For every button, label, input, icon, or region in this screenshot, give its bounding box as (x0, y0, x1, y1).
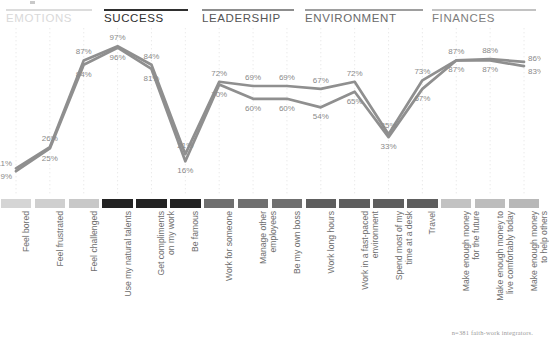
data-label: 11% (0, 159, 12, 168)
footnote: n=381 faith-work integrators. (452, 329, 533, 336)
data-label: 70% (211, 90, 227, 99)
data-label: 88% (482, 46, 498, 55)
x-axis-label: Work long hours (327, 211, 345, 323)
x-axis-label: Make enough money to live comfortably to… (496, 211, 514, 323)
x-axis-labels: Feel boredFeel frustratedFeel challenged… (0, 211, 541, 323)
category-swatch (272, 199, 302, 208)
data-label: 69% (245, 73, 261, 82)
data-label: 9% (0, 172, 12, 181)
x-axis-label: Manage other employees (259, 211, 277, 323)
category-swatch (102, 199, 132, 208)
category-swatch (35, 199, 65, 208)
category-swatch (170, 199, 200, 208)
category-swatch (1, 199, 31, 208)
x-axis-label: Work for someone (225, 211, 243, 323)
category-swatch (69, 199, 99, 208)
category-leadership: LEADERSHIP (202, 0, 294, 28)
data-label: 97% (110, 33, 126, 42)
category-label: SUCCESS (104, 12, 164, 24)
category-swatch-strip (0, 199, 541, 208)
data-label: 87% (448, 65, 464, 74)
data-label: 65% (347, 97, 363, 106)
data-label: 25% (42, 154, 58, 163)
line-chart-plot-area: 11%26%87%97%84%21%72%69%69%67%72%35%73%8… (0, 28, 541, 196)
x-axis-label: Make enough money for the future (462, 211, 480, 323)
category-swatch (339, 199, 369, 208)
category-emotions: EMOTIONS (6, 0, 92, 28)
category-rule (305, 9, 423, 11)
data-label: 69% (279, 73, 295, 82)
x-axis-label: Feel challenged (90, 211, 108, 323)
data-label: 87% (482, 65, 498, 74)
data-label: 16% (177, 166, 193, 175)
category-environment: ENVIRONMENT (305, 0, 423, 28)
category-label: ENVIRONMENT (305, 12, 397, 24)
x-axis-label: Use my natural talents (124, 211, 142, 323)
data-label: 21% (177, 141, 193, 150)
category-rule (202, 9, 294, 11)
x-axis-label: Get compliments on my work (157, 211, 175, 323)
category-swatch (407, 199, 437, 208)
data-label: 87% (448, 47, 464, 56)
data-label: 72% (211, 69, 227, 78)
x-axis-label: Spend most of my time at a desk (395, 211, 413, 323)
data-label: 33% (381, 142, 397, 151)
category-rule (6, 9, 92, 11)
category-label: FINANCES (432, 12, 495, 24)
data-label: 26% (42, 134, 58, 143)
data-label: 96% (110, 53, 126, 62)
category-rule (104, 9, 188, 11)
data-label: 86% (528, 54, 541, 63)
data-label: 84% (76, 70, 92, 79)
x-axis-label: Be my own boss (293, 211, 311, 323)
data-label: 35% (381, 121, 397, 130)
category-label: LEADERSHIP (202, 12, 281, 24)
category-swatch (441, 199, 471, 208)
data-label: 83% (528, 67, 541, 76)
x-axis-label: Feel frustrated (56, 211, 74, 323)
data-label: 73% (414, 67, 430, 76)
data-label: 84% (143, 52, 159, 61)
category-swatch (238, 199, 268, 208)
data-label: 67% (313, 76, 329, 85)
x-axis-label: Feel bored (22, 211, 40, 323)
category-label: EMOTIONS (6, 12, 72, 24)
category-finances: FINANCES (432, 0, 536, 28)
category-rule (432, 9, 536, 11)
x-axis-label: Be famous (191, 211, 209, 323)
data-label: 72% (347, 69, 363, 78)
chart-svg: 11%26%87%97%84%21%72%69%69%67%72%35%73%8… (0, 28, 541, 196)
category-swatch (204, 199, 234, 208)
data-label: 67% (414, 94, 430, 103)
category-swatch (509, 199, 539, 208)
category-swatch (136, 199, 166, 208)
category-swatch (373, 199, 403, 208)
data-label: 60% (245, 104, 261, 113)
category-swatch (306, 199, 336, 208)
category-header-band: EMOTIONS SUCCESS LEADERSHIP ENVIRONMENT … (0, 0, 541, 28)
x-axis-label: Work in a fast-paced environment (361, 211, 379, 323)
data-label: 87% (76, 47, 92, 56)
x-axis-label: Travel (428, 211, 446, 323)
category-swatch (475, 199, 505, 208)
x-axis-label: Make enough money to help others (530, 211, 548, 323)
category-success: SUCCESS (104, 0, 188, 28)
data-label: 81% (143, 74, 159, 83)
data-label: 54% (313, 112, 329, 121)
data-label: 60% (279, 104, 295, 113)
